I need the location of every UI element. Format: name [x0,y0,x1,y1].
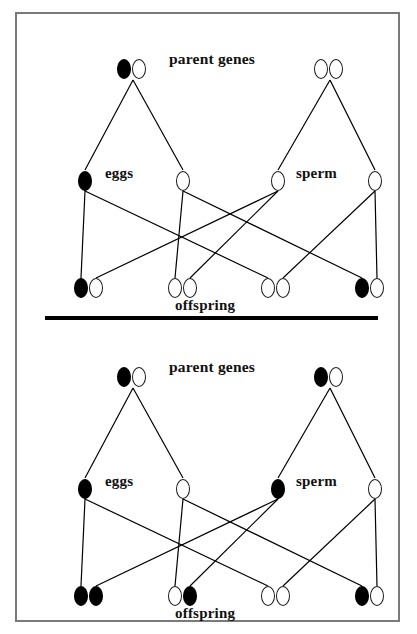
allele-open [132,367,146,387]
gamete-egg-2 [176,479,190,499]
fertilization-edge-egg-2-offspring-2 [175,191,183,278]
fertilization-edge-sperm-1-offspring-2 [190,191,278,278]
parent-gene-pair-mother [117,367,146,387]
parent-genes-label: parent genes [169,358,255,376]
sperm-label: sperm [296,473,337,490]
gamete-sperm-1 [271,479,285,499]
allele-filled [183,586,197,606]
allele-open [89,278,103,298]
fertilization-edge-egg-2-offspring-4 [183,499,362,586]
meiosis-edge-father-sperm-1 [278,388,330,478]
gamete-egg-1 [78,171,92,191]
allele-open [168,278,182,298]
genetics-diagram-figure: parent geneseggsspermoffspring parent ge… [0,0,417,634]
gamete-sperm-1 [271,171,285,191]
allele-open [370,278,384,298]
allele-open [314,59,328,79]
offspring-gene-pair-2 [168,586,197,606]
meiosis-edge-mother-egg-2 [133,388,183,478]
allele-open [329,367,343,387]
offspring-label: offspring [175,297,235,314]
fertilization-edge-sperm-2-offspring-4 [375,191,377,278]
allele-filled [355,586,369,606]
parent-gene-pair-father [314,367,343,387]
allele-filled [74,586,88,606]
meiosis-edge-father-sperm-1 [278,80,330,170]
parent-gene-pair-mother [117,59,146,79]
fertilization-edge-sperm-2-offspring-3 [283,499,375,586]
fertilization-edge-egg-1-offspring-3 [85,191,268,278]
offspring-gene-pair-2 [168,278,197,298]
panel-divider-rule [45,316,378,320]
panel-top-cross: parent geneseggsspermoffspring [17,14,398,314]
eggs-label: eggs [105,165,133,182]
meiosis-edge-father-sperm-2 [330,388,375,478]
allele-filled [117,59,131,79]
fertilization-edge-sperm-1-offspring-1 [96,499,278,586]
allele-open [132,59,146,79]
allele-filled [355,278,369,298]
parent-genes-label: parent genes [169,50,255,68]
offspring-gene-pair-3 [261,586,290,606]
gamete-egg-1 [78,479,92,499]
allele-filled [117,367,131,387]
allele-open [168,586,182,606]
fertilization-edge-egg-1-offspring-1 [81,191,85,278]
allele-open [329,59,343,79]
gamete-sperm-2 [368,479,382,499]
offspring-gene-pair-3 [261,278,290,298]
offspring-gene-pair-1 [74,278,103,298]
fertilization-edge-sperm-1-offspring-2 [190,499,278,586]
fertilization-edge-egg-1-offspring-1 [81,499,85,586]
fertilization-edge-sperm-1-offspring-1 [96,191,278,278]
allele-open [276,586,290,606]
allele-open [271,171,285,191]
meiosis-edge-father-sperm-2 [330,80,375,170]
allele-open [368,479,382,499]
meiosis-edge-mother-egg-1 [85,388,133,478]
allele-open [276,278,290,298]
allele-open [368,171,382,191]
gamete-sperm-2 [368,171,382,191]
fertilization-edge-egg-2-offspring-2 [175,499,183,586]
offspring-gene-pair-1 [74,586,103,606]
allele-open [370,586,384,606]
allele-filled [74,278,88,298]
gamete-egg-2 [176,171,190,191]
offspring-gene-pair-4 [355,278,384,298]
parent-gene-pair-father [314,59,343,79]
panel-bottom-cross: parent geneseggsspermoffspring [17,322,398,620]
fertilization-edge-sperm-2-offspring-3 [283,191,375,278]
allele-filled [314,367,328,387]
fertilization-edge-egg-2-offspring-4 [183,191,362,278]
meiosis-edge-mother-egg-2 [133,80,183,170]
allele-open [176,171,190,191]
sperm-label: sperm [296,165,337,182]
fertilization-edge-egg-1-offspring-3 [85,499,268,586]
meiosis-edge-mother-egg-1 [85,80,133,170]
allele-open [261,586,275,606]
allele-filled [78,171,92,191]
fertilization-edge-sperm-2-offspring-4 [375,499,377,586]
allele-open [261,278,275,298]
allele-filled [78,479,92,499]
allele-filled [89,586,103,606]
allele-open [176,479,190,499]
eggs-label: eggs [105,473,133,490]
offspring-gene-pair-4 [355,586,384,606]
offspring-label: offspring [175,605,235,622]
allele-filled [271,479,285,499]
allele-open [183,278,197,298]
